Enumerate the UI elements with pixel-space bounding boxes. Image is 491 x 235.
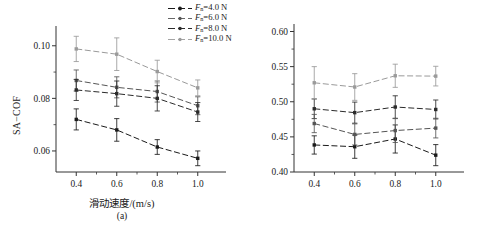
data-point: [434, 153, 437, 156]
x-tick-label: 0.4: [308, 179, 320, 189]
x-tick-label: 0.4: [70, 179, 82, 189]
data-point: [115, 52, 118, 55]
data-series: [312, 125, 439, 166]
data-point: [156, 97, 159, 100]
data-point: [313, 122, 316, 125]
y-tick-label: 0.55: [272, 62, 289, 72]
data-point: [156, 70, 159, 73]
data-point: [313, 143, 316, 146]
y-tick-label: 0.50: [272, 97, 289, 107]
data-point: [196, 86, 199, 89]
data-point: [196, 157, 199, 160]
data-point: [75, 118, 78, 121]
data-point: [353, 85, 356, 88]
data-series: [312, 96, 439, 123]
data-point: [313, 81, 316, 84]
x-axis-label-a: 滑动速度/(m/s): [22, 195, 222, 210]
legend-key-icon: [168, 4, 192, 13]
legend-label: Fn=10.0 N: [195, 33, 232, 45]
y-tick-label: 0.10: [34, 41, 51, 51]
data-point: [394, 105, 397, 108]
legend-item: Fn=10.0 N: [168, 34, 232, 44]
data-point: [115, 92, 118, 95]
data-point: [196, 110, 199, 113]
data-series: [312, 64, 439, 100]
y-tick-label: 0.08: [34, 94, 51, 104]
panel-a: 0.060.080.100.40.60.81.0 SA−COF 滑动速度/(m/…: [0, 0, 245, 212]
data-point: [394, 129, 397, 132]
data-point: [434, 108, 437, 111]
data-point: [75, 88, 78, 91]
x-tick-label: 0.6: [349, 179, 361, 189]
data-series: [74, 70, 201, 115]
subcaption-a: (a): [22, 211, 222, 221]
x-tick-label: 0.6: [111, 179, 123, 189]
data-point: [353, 145, 356, 148]
y-tick-label: 0.06: [34, 146, 51, 156]
plot-area-b: 0.400.450.500.550.600.40.60.81.0: [246, 0, 491, 212]
data-series: [312, 114, 439, 145]
y-tick-label: 0.60: [272, 27, 289, 37]
x-tick-label: 0.8: [151, 179, 163, 189]
legend-key-icon: [168, 14, 192, 23]
legend-key-icon: [168, 35, 192, 44]
data-point: [394, 74, 397, 77]
legend-a: Fn=4.0 N Fn=6.0 N Fn=8.0 N Fn=10.0 N: [168, 3, 232, 45]
data-point: [434, 74, 437, 77]
data-series: [74, 36, 201, 95]
x-tick-label: 1.0: [430, 179, 442, 189]
legend-key-icon: [168, 24, 192, 33]
data-series: [74, 109, 201, 166]
x-tick-label: 0.8: [389, 179, 401, 189]
y-tick-label: 0.45: [272, 132, 289, 142]
data-point: [353, 111, 356, 114]
y-axis-label-a: SA−COF: [11, 96, 22, 135]
data-point: [156, 145, 159, 148]
panel-b: 0.400.450.500.550.600.40.60.81.0 Iw/(×10…: [246, 0, 491, 212]
x-tick-label: 1.0: [192, 179, 204, 189]
data-point: [434, 126, 437, 129]
data-point: [75, 47, 78, 50]
data-point: [115, 128, 118, 131]
y-tick-label: 0.40: [272, 167, 289, 177]
data-point: [353, 133, 356, 136]
figure-container: 0.060.080.100.40.60.81.0 SA−COF 滑动速度/(m/…: [0, 0, 491, 235]
data-point: [313, 107, 316, 110]
